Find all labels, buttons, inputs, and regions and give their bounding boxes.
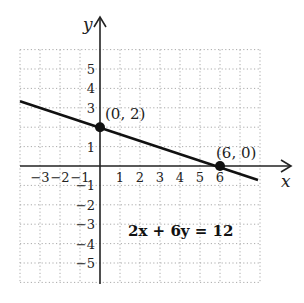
- y-axis-label: y: [82, 14, 93, 34]
- x-tick-label: 4: [176, 170, 184, 185]
- x-tick-label: 2: [136, 170, 144, 185]
- y-tick-label: 5: [87, 62, 95, 77]
- x-tick-label: −2: [50, 170, 69, 185]
- x-tick-label: 5: [196, 170, 204, 185]
- y-tick-label: −3: [76, 217, 95, 232]
- x-tick-label: −3: [30, 170, 49, 185]
- y-tick-label: −1: [76, 178, 95, 193]
- x-tick-label: 3: [156, 170, 164, 185]
- intercept-points: (0, 2)(6, 0): [95, 105, 256, 171]
- y-tick-label: 4: [87, 81, 95, 96]
- x-axis-label: x: [281, 171, 291, 191]
- intercept-point: [95, 122, 105, 132]
- point-label: (0, 2): [105, 105, 145, 123]
- x-tick-label: 6: [216, 170, 224, 185]
- point-label: (6, 0): [216, 144, 256, 162]
- y-tick-label: 3: [87, 101, 95, 116]
- y-tick-label: −4: [76, 237, 95, 252]
- equation-label: 2x + 6y = 12: [128, 222, 233, 240]
- coordinate-graph: x y −3−2−11234565431−1−2−3−4−5 (0, 2)(6,…: [0, 0, 304, 303]
- intercept-point: [215, 161, 225, 171]
- y-tick-label: −2: [76, 198, 95, 213]
- y-tick-label: 1: [87, 140, 95, 155]
- x-tick-label: 1: [116, 170, 124, 185]
- y-tick-label: −5: [76, 256, 95, 271]
